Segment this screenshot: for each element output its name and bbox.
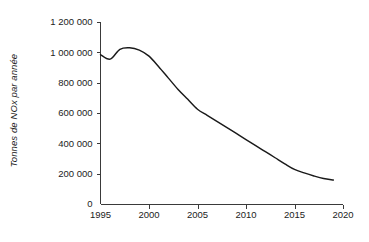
data-series-line (101, 48, 334, 180)
y-tick-label: 200 000 (58, 168, 92, 179)
y-tick-label: 400 000 (58, 138, 92, 149)
y-tick-mark-group (97, 23, 101, 175)
x-tick-label: 2020 (332, 209, 353, 220)
plot-area: 0200 000400 000600 000800 0001 000 0001 … (0, 0, 369, 242)
x-tick-mark-group (150, 205, 344, 209)
x-tick-label: 2010 (235, 209, 256, 220)
y-tick-label: 1 200 000 (50, 16, 92, 27)
x-tick-label: 2015 (284, 209, 305, 220)
y-tick-label: 1 000 000 (50, 47, 92, 58)
x-tick-label: 2000 (138, 209, 159, 220)
y-tick-label-group: 0200 000400 000600 000800 0001 000 0001 … (50, 16, 92, 209)
nox-emissions-line-chart: Tonnes de NOx par année 0200 000400 0006… (0, 0, 369, 242)
x-tick-label-group: 199520002005201020152020 (90, 209, 354, 220)
x-tick-label: 1995 (90, 209, 111, 220)
y-tick-label: 600 000 (58, 107, 92, 118)
x-tick-label: 2005 (187, 209, 208, 220)
y-tick-label: 0 (87, 198, 92, 209)
y-tick-label: 800 000 (58, 77, 92, 88)
